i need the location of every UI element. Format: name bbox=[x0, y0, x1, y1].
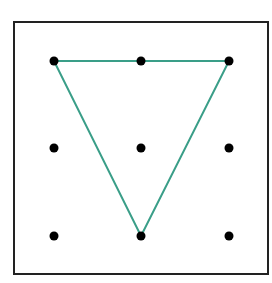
grid-dot-r0-c0 bbox=[50, 57, 59, 66]
grid-dot-r2-c2 bbox=[225, 232, 234, 241]
grid-dot-r2-c0 bbox=[50, 232, 59, 241]
grid-dot-r0-c1 bbox=[137, 57, 146, 66]
grid-dot-r1-c2 bbox=[225, 144, 234, 153]
dot-grid bbox=[50, 57, 234, 241]
grid-dot-r1-c1 bbox=[137, 144, 146, 153]
grid-dot-r1-c0 bbox=[50, 144, 59, 153]
grid-dot-r0-c2 bbox=[225, 57, 234, 66]
grid-dot-r2-c1 bbox=[137, 232, 146, 241]
dot-grid-diagram bbox=[0, 0, 272, 283]
